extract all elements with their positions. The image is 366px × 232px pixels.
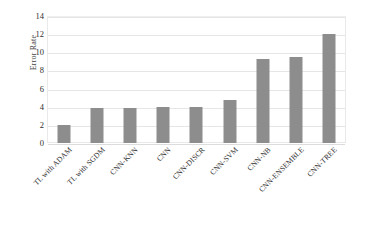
bar <box>256 59 269 143</box>
x-axis-tick-labels: TL with ADAMTL with SGDMCNN-KNNCNNCNN-DI… <box>47 144 346 232</box>
y-axis-tick-labels: 02468101214 <box>24 16 44 143</box>
bar-slot <box>246 16 279 143</box>
y-axis-tick-label: 6 <box>24 84 44 93</box>
x-axis-tick-label: CNN-DISCR <box>171 146 206 181</box>
bar-slot <box>213 16 246 143</box>
y-axis-tick-label: 10 <box>24 48 44 57</box>
bar <box>223 100 236 143</box>
bar-slot <box>280 16 313 143</box>
bar-series <box>47 16 346 143</box>
bar <box>323 34 336 143</box>
bar <box>90 108 103 143</box>
y-axis-tick-label: 4 <box>24 102 44 111</box>
bar <box>290 57 303 143</box>
y-axis-tick-label: 2 <box>24 121 44 130</box>
bar <box>157 107 170 143</box>
bar <box>57 125 70 143</box>
bar-slot <box>180 16 213 143</box>
x-axis-tick-label: CNN-KNN <box>109 146 140 177</box>
bar <box>190 107 203 143</box>
bar <box>124 108 137 143</box>
bar-slot <box>113 16 146 143</box>
x-axis-tick-label: CNN-SVM <box>208 146 239 177</box>
bar-chart-figure: Error Rate 02468101214 TL with ADAMTL wi… <box>0 0 366 232</box>
bar-slot <box>313 16 346 143</box>
y-axis-tick-label: 12 <box>24 30 44 39</box>
y-axis-tick-label: 0 <box>24 139 44 148</box>
x-axis-tick-label: CNN-TREE <box>306 146 338 178</box>
x-axis-tick-label: CNN-NB <box>246 146 272 172</box>
y-axis-tick-label: 8 <box>24 66 44 75</box>
bar-slot <box>47 16 80 143</box>
bar-slot <box>147 16 180 143</box>
x-axis-tick-label: CNN <box>156 146 173 163</box>
y-axis-tick-label: 14 <box>24 12 44 21</box>
bar-slot <box>80 16 113 143</box>
